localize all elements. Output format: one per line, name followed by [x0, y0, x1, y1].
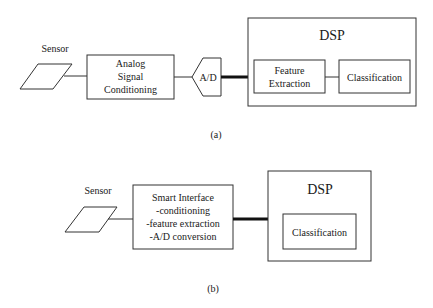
- interface-line-4: -A/D conversion: [150, 231, 217, 242]
- caption-b: (b): [207, 283, 219, 295]
- interface-line-1: Smart Interface: [152, 192, 214, 203]
- feature-line-1: Feature: [275, 65, 306, 76]
- classification-label-a: Classification: [347, 72, 402, 83]
- sensor-label-a: Sensor: [41, 43, 69, 54]
- adc-label: A/D: [199, 72, 216, 83]
- dsp-title-b: DSP: [307, 182, 333, 197]
- conditioning-line-2: Signal: [118, 71, 144, 82]
- classification-label-b: Classification: [292, 227, 347, 238]
- conditioning-line-1: Analog: [116, 58, 145, 69]
- feature-line-2: Extraction: [269, 78, 311, 89]
- diagram-a: Sensor Analog Signal Conditioning A/D DS…: [20, 18, 416, 141]
- conditioning-line-3: Conditioning: [104, 84, 157, 95]
- interface-line-3: -feature extraction: [146, 218, 220, 229]
- caption-a: (a): [210, 129, 221, 141]
- sensor-label-b: Sensor: [84, 185, 112, 196]
- dsp-title-a: DSP: [319, 28, 345, 43]
- interface-line-2: -conditioning: [156, 205, 210, 216]
- block-diagram: Sensor Analog Signal Conditioning A/D DS…: [0, 0, 433, 308]
- diagram-b: Sensor Smart Interface -conditioning -fe…: [65, 171, 371, 295]
